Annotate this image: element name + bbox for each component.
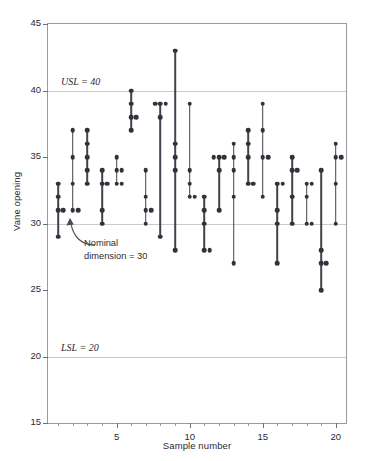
data-point	[319, 288, 324, 293]
data-point	[144, 221, 149, 226]
sample-range-line	[130, 91, 132, 131]
data-point	[173, 168, 178, 173]
data-point	[144, 168, 149, 173]
data-point	[100, 181, 105, 186]
data-point	[246, 155, 251, 160]
usl-annotation: USL = 40	[61, 76, 100, 87]
data-point	[85, 128, 90, 133]
x-tick-label-5: 5	[114, 431, 119, 442]
x-tick-10	[190, 423, 191, 428]
data-point	[207, 248, 212, 253]
data-point	[187, 102, 192, 107]
sample-range-line	[291, 157, 293, 224]
x-tick-8	[160, 423, 161, 426]
x-tick-3	[87, 423, 88, 426]
data-point	[71, 128, 76, 133]
data-point	[71, 155, 76, 160]
data-point	[158, 235, 163, 240]
data-point	[173, 141, 178, 146]
data-point	[144, 195, 149, 200]
x-tick-1	[58, 423, 59, 426]
x-tick-13	[234, 423, 235, 426]
data-point	[114, 181, 119, 186]
data-point	[129, 128, 134, 133]
data-point	[71, 208, 76, 213]
data-point	[173, 155, 178, 160]
x-tick-12	[219, 423, 220, 426]
data-point	[246, 128, 251, 133]
sample-range-line	[218, 157, 220, 210]
y-axis-title: Vane opening	[11, 142, 22, 262]
sample-range-line	[306, 184, 308, 224]
data-point	[158, 115, 163, 120]
data-point	[304, 181, 309, 186]
data-point	[71, 181, 76, 186]
x-axis-title: Sample number	[47, 440, 347, 451]
data-point	[217, 168, 222, 173]
data-point	[304, 221, 309, 226]
data-point	[134, 115, 139, 120]
y-tick-40	[43, 91, 48, 92]
data-point	[120, 181, 125, 186]
data-point	[275, 221, 280, 226]
data-point	[324, 261, 329, 266]
data-point	[319, 248, 324, 253]
vane-opening-scatter-figure: Vane opening Sample number 1520253035404…	[0, 0, 367, 461]
data-point	[129, 88, 134, 93]
y-tick-label-15: 15	[30, 416, 41, 427]
data-point	[153, 102, 158, 107]
x-tick-label-15: 15	[257, 431, 268, 442]
data-point	[187, 168, 192, 173]
data-point	[304, 195, 309, 200]
x-tick-19	[321, 423, 322, 426]
data-point	[280, 181, 285, 186]
nominal-callout-arrow-icon	[62, 216, 96, 248]
data-point	[290, 221, 295, 226]
data-point	[260, 128, 265, 133]
data-point	[187, 181, 192, 186]
data-point	[333, 155, 338, 160]
x-tick-16	[277, 423, 278, 426]
data-point	[217, 155, 222, 160]
data-point	[85, 155, 90, 160]
data-point	[85, 181, 90, 186]
data-point	[260, 155, 265, 160]
data-point	[222, 155, 227, 160]
data-point	[266, 155, 271, 160]
x-tick-11	[204, 423, 205, 426]
data-point	[144, 208, 149, 213]
x-tick-7	[146, 423, 147, 426]
data-point	[129, 102, 134, 107]
data-point	[149, 208, 154, 213]
data-point	[231, 195, 236, 200]
x-tick-label-20: 20	[330, 431, 341, 442]
data-point	[120, 168, 125, 173]
data-point	[275, 181, 280, 186]
data-point	[333, 181, 338, 186]
data-point	[231, 155, 236, 160]
data-point	[56, 195, 61, 200]
x-tick-17	[292, 423, 293, 426]
data-point	[275, 208, 280, 213]
data-point	[56, 208, 61, 213]
data-point	[193, 195, 198, 200]
data-point	[333, 221, 338, 226]
data-point	[61, 208, 66, 213]
x-tick-label-10: 10	[184, 431, 195, 442]
data-point	[260, 102, 265, 107]
data-point	[217, 208, 222, 213]
data-point	[319, 261, 324, 266]
data-point	[76, 208, 81, 213]
data-point	[231, 261, 236, 266]
data-point	[56, 235, 61, 240]
y-tick-15	[43, 423, 48, 424]
data-point	[85, 168, 90, 173]
data-point	[319, 168, 324, 173]
sample-range-line	[72, 130, 74, 210]
y-tick-label-30: 30	[30, 217, 41, 228]
x-tick-4	[102, 423, 103, 426]
x-tick-2	[73, 423, 74, 426]
y-tick-20	[43, 357, 48, 358]
data-point	[309, 221, 314, 226]
y-tick-30	[43, 224, 48, 225]
